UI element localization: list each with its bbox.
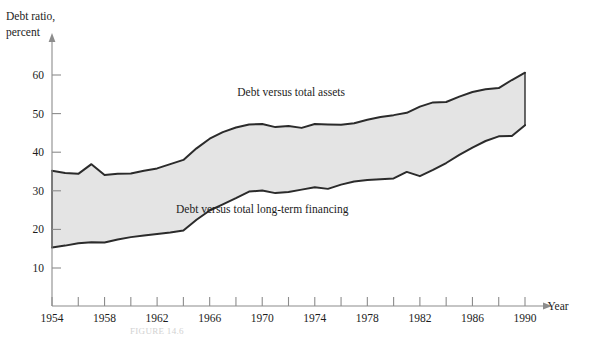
x-tick-label-1982: 1982 [408, 312, 431, 324]
x-tick-label-1962: 1962 [146, 312, 169, 324]
y-tick-label-10: 10 [33, 262, 45, 274]
x-tick-label-1966: 1966 [198, 312, 221, 324]
y-axis-arrow-icon [49, 33, 56, 42]
y-tick-label-30: 30 [33, 185, 45, 197]
figure-caption: FIGURE 14.6 [130, 326, 184, 336]
x-axis-title: Year [547, 300, 568, 312]
y-tick-label-60: 60 [33, 69, 45, 81]
x-tick-label-1958: 1958 [93, 312, 116, 324]
x-axis: 1954195819621966197019741978198219861990 [41, 297, 553, 324]
annotation-0: Debt versus total assets [237, 86, 345, 98]
annotation-1: Debt versus total long-term financing [176, 203, 349, 216]
x-tick-label-1978: 1978 [356, 312, 379, 324]
x-tick-label-1990: 1990 [514, 312, 537, 324]
y-axis-title-line1: Debt ratio, [6, 10, 55, 23]
y-tick-label-20: 20 [33, 223, 45, 235]
figure-container: 102030405060 195419581962196619701974197… [0, 0, 590, 337]
debt-ratio-area-chart: 102030405060 195419581962196619701974197… [0, 0, 590, 337]
x-tick-group: 1954195819621966197019741978198219861990 [41, 297, 537, 324]
y-axis: 102030405060 [33, 33, 62, 306]
y-axis-title-line2: percent [6, 26, 41, 39]
x-tick-label-1970: 1970 [251, 312, 274, 324]
x-tick-label-1954: 1954 [41, 312, 64, 324]
x-tick-label-1974: 1974 [303, 312, 326, 324]
y-tick-label-50: 50 [33, 108, 45, 120]
y-tick-label-40: 40 [33, 146, 45, 158]
x-tick-label-1986: 1986 [461, 312, 484, 324]
